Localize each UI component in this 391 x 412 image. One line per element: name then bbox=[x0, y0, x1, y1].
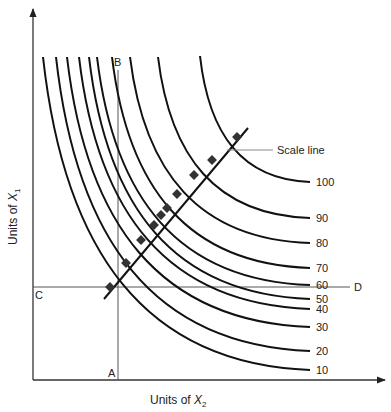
scale-point bbox=[189, 170, 199, 180]
isoquant-60 bbox=[97, 57, 310, 285]
isoquant-labels: 102030405060708090100 bbox=[316, 176, 334, 376]
isoquant-label-30: 30 bbox=[316, 321, 328, 333]
axes bbox=[33, 9, 385, 380]
isoquant-label-100: 100 bbox=[316, 176, 334, 188]
isoquant-label-80: 80 bbox=[316, 237, 328, 249]
isoquant-label-50: 50 bbox=[316, 293, 328, 305]
isoquant-100 bbox=[200, 56, 310, 182]
label-a: A bbox=[108, 367, 116, 379]
scale-point bbox=[172, 189, 182, 199]
scale-point bbox=[162, 203, 172, 213]
isoquant-label-70: 70 bbox=[316, 262, 328, 274]
isoquant-label-90: 90 bbox=[316, 212, 328, 224]
scale-point bbox=[207, 155, 217, 165]
isoquant-label-20: 20 bbox=[316, 345, 328, 357]
isoquant-label-60: 60 bbox=[316, 279, 328, 291]
scale-point bbox=[232, 132, 242, 142]
isoquant-diagram: Scale line 102030405060708090100 B A C D… bbox=[0, 0, 391, 412]
scale-line bbox=[104, 128, 248, 299]
scale-line-label: Scale line bbox=[277, 144, 325, 156]
label-d: D bbox=[354, 281, 362, 293]
isoquant-label-10: 10 bbox=[316, 364, 328, 376]
x-axis-label: Units of X2 bbox=[150, 393, 207, 409]
label-b: B bbox=[114, 56, 121, 68]
label-c: C bbox=[35, 289, 43, 301]
y-axis-label: Units of X1 bbox=[6, 188, 22, 245]
scale-point bbox=[105, 282, 115, 292]
